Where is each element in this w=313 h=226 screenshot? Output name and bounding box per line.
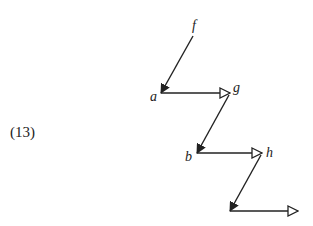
node-label-f: f: [192, 18, 198, 33]
node-label-g: g: [233, 80, 240, 95]
arrow-g-to-b: [197, 95, 229, 153]
node-label-a: a: [150, 89, 157, 104]
arrow-diagram: f a g b h: [0, 0, 313, 226]
node-label-b: b: [185, 149, 192, 164]
arrow-f-to-a: [161, 36, 193, 93]
node-label-h: h: [266, 145, 273, 160]
arrow-h-to-c: [230, 155, 261, 211]
